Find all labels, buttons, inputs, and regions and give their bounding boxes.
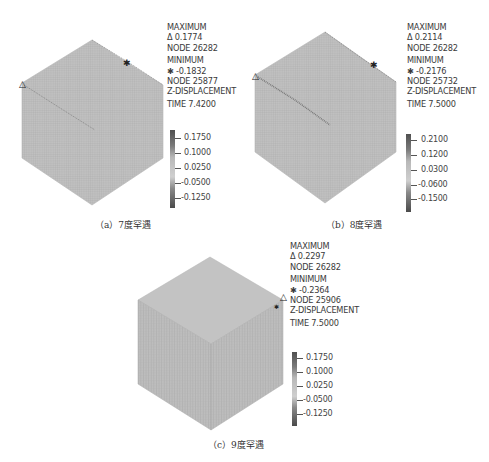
legend-tick: [297, 386, 303, 387]
min-label: MINIMUM: [290, 274, 359, 284]
asterisk-icon: ✱: [123, 59, 131, 68]
legend-tick: [411, 170, 417, 171]
panel-b: △ ✱ MAXIMUM Δ 0.2114 NODE 26282 MINIMUM …: [240, 0, 489, 232]
result-info-b: MAXIMUM Δ 0.2114 NODE 26282 MINIMUM ✱ -0…: [407, 22, 476, 109]
time-label: TIME 7.4200: [167, 99, 236, 109]
legend-value: 0.1000: [306, 367, 333, 376]
max-node: NODE 26282: [167, 43, 236, 53]
max-label: MAXIMUM: [290, 241, 359, 251]
color-legend-b: 0.2100 0.1200 0.0300 -0.0600 -0.1500: [406, 134, 476, 214]
legend-value: -0.1250: [181, 193, 210, 202]
legend-tick: [411, 155, 417, 156]
min-label: MINIMUM: [167, 55, 236, 65]
panel-c: △ ✱ MAXIMUM Δ 0.2297 NODE 26282 MINIMUM …: [0, 232, 489, 462]
legend-tick: [411, 199, 417, 200]
time-label: TIME 7.5000: [407, 99, 476, 109]
result-info-c: MAXIMUM Δ 0.2297 NODE 26282 MINIMUM ✱ -0…: [290, 241, 359, 328]
quantity-label: Z-DISPLACEMENT: [167, 86, 236, 96]
triangle-icon: △: [19, 80, 26, 89]
panel-a: △ ✱ MAXIMUM Δ 0.1774 NODE 26282 MINIMUM …: [0, 0, 244, 232]
min-node: NODE 25877: [167, 76, 236, 86]
cube-mesh-a: [0, 0, 170, 215]
legend-value: -0.1500: [418, 194, 447, 203]
legend-value: 0.0300: [421, 165, 448, 174]
quantity-label: Z-DISPLACEMENT: [290, 305, 359, 315]
legend-tick: [175, 168, 181, 169]
legend-value: 0.1750: [184, 133, 211, 142]
legend-value: -0.1250: [303, 409, 332, 418]
legend-tick: [297, 372, 303, 373]
cube-mesh-b: [240, 0, 410, 215]
legend-value: 0.1000: [184, 148, 211, 157]
min-value: ✱ -0.2364: [290, 285, 359, 295]
legend-value: 0.1750: [306, 353, 333, 362]
legend-tick: [411, 185, 417, 186]
triangle-icon: △: [280, 293, 287, 302]
min-label: MINIMUM: [407, 55, 476, 65]
legend-value: 0.0250: [184, 163, 211, 172]
max-node: NODE 26282: [407, 43, 476, 53]
min-node: NODE 25732: [407, 76, 476, 86]
asterisk-icon: ✱: [274, 302, 279, 311]
color-bar: [406, 134, 411, 212]
caption-c: （c）9度罕遇: [208, 438, 264, 451]
time-label: TIME 7.5000: [290, 318, 359, 328]
color-bar: [170, 130, 175, 208]
legend-tick: [175, 153, 181, 154]
max-label: MAXIMUM: [167, 22, 236, 32]
quantity-label: Z-DISPLACEMENT: [407, 86, 476, 96]
legend-value: 0.2100: [421, 135, 448, 144]
max-value: Δ 0.2114: [407, 32, 476, 42]
result-info-a: MAXIMUM Δ 0.1774 NODE 26282 MINIMUM ✱ -0…: [167, 22, 236, 109]
cube-mesh-c: [0, 232, 300, 442]
max-label: MAXIMUM: [407, 22, 476, 32]
legend-value: 0.1200: [421, 150, 448, 159]
legend-tick: [411, 140, 417, 141]
triangle-icon: △: [252, 72, 259, 81]
legend-tick: [175, 138, 181, 139]
color-legend-c: 0.1750 0.1000 0.0250 -0.0500 -0.1250: [292, 352, 362, 432]
caption-a: （a）7度罕遇: [95, 218, 151, 231]
color-legend-a: 0.1750 0.1000 0.0250 -0.0500 -0.1250: [170, 130, 230, 210]
min-value: ✱ -0.1832: [167, 66, 236, 76]
legend-value: -0.0600: [418, 180, 447, 189]
max-node: NODE 26282: [290, 262, 359, 272]
legend-value: 0.0250: [306, 381, 333, 390]
min-node: NODE 25906: [290, 295, 359, 305]
max-value: Δ 0.2297: [290, 251, 359, 261]
min-value: ✱ -0.2176: [407, 66, 476, 76]
legend-value: -0.0500: [181, 178, 210, 187]
asterisk-icon: ✱: [370, 61, 378, 70]
legend-tick: [297, 358, 303, 359]
legend-value: -0.0500: [303, 395, 332, 404]
caption-b: （b）8度罕遇: [326, 218, 383, 231]
max-value: Δ 0.1774: [167, 32, 236, 42]
